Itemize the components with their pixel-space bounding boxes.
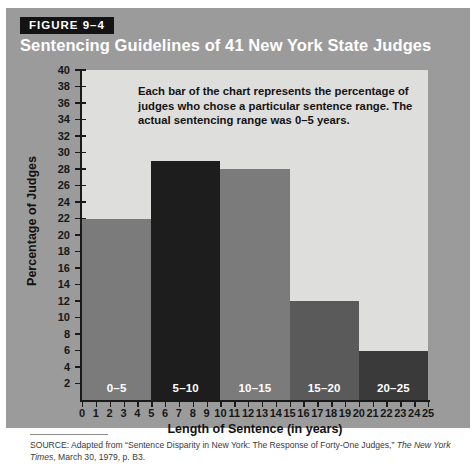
y-tick-label: 10 — [44, 312, 70, 323]
y-tick-label: 18 — [44, 246, 70, 257]
x-tick-label: 25 — [418, 407, 438, 419]
y-tick-label: 30 — [44, 147, 70, 158]
source-note: SOURCE: Adapted from “Sentence Disparity… — [30, 440, 454, 463]
y-tick-label: 34 — [44, 114, 70, 125]
y-tick-label: 2 — [44, 378, 70, 389]
figure-number-tag: FIGURE 9–4 — [20, 17, 114, 34]
bar-category-label: 10–15 — [220, 382, 289, 394]
y-tick-label: 16 — [44, 263, 70, 274]
y-tick-label: 36 — [44, 98, 70, 109]
y-tick-label: 14 — [44, 279, 70, 290]
chart-bar: 15–20 — [290, 301, 359, 400]
y-tick-label: 26 — [44, 180, 70, 191]
y-tick-label: 8 — [44, 329, 70, 340]
source-divider — [30, 434, 108, 435]
figure-title: Sentencing Guidelines of 41 New York Sta… — [20, 36, 431, 55]
y-tick-label: 24 — [44, 197, 70, 208]
y-tick-label: 12 — [44, 296, 70, 307]
y-tick-label: 32 — [44, 131, 70, 142]
y-tick-label: 40 — [44, 65, 70, 76]
y-tick-label: 22 — [44, 213, 70, 224]
x-axis-line — [80, 400, 430, 402]
y-axis-title: Percentage of Judges — [25, 121, 39, 321]
y-tick-label: 4 — [44, 362, 70, 373]
y-tick-label: 6 — [44, 345, 70, 356]
bar-category-label: 0–5 — [82, 382, 151, 394]
figure-panel: FIGURE 9–4 Sentencing Guidelines of 41 N… — [6, 8, 470, 428]
y-tick-label: 28 — [44, 164, 70, 175]
chart-annotation: Each bar of the chart represents the per… — [138, 84, 428, 128]
chart-bar: 5–10 — [151, 161, 220, 400]
chart-area: 403836343230282624222018161412108642 012… — [16, 64, 460, 422]
chart-bar: 10–15 — [220, 169, 289, 400]
source-prefix-text: SOURCE: Adapted from “Sentence Disparity… — [30, 440, 397, 450]
x-axis-title: Length of Sentence (in years) — [82, 422, 428, 436]
y-tick-label: 20 — [44, 230, 70, 241]
bar-category-label: 20–25 — [359, 382, 428, 394]
y-tick-label: 38 — [44, 81, 70, 92]
chart-bar: 0–5 — [82, 219, 151, 401]
source-suffix-text: , March 30, 1979, p. B3. — [53, 452, 145, 462]
bar-category-label: 15–20 — [290, 382, 359, 394]
chart-bar: 20–25 — [359, 351, 428, 401]
bar-category-label: 5–10 — [151, 382, 220, 394]
